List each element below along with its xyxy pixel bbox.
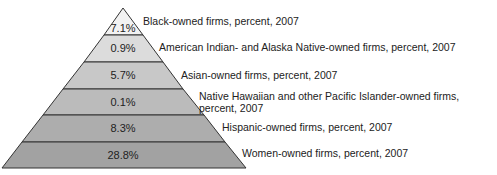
layer-label-4-line2: percent, 2007 — [199, 102, 263, 114]
layer-value-2: 0.9% — [110, 42, 135, 54]
layer-value-6: 28.8% — [107, 149, 138, 161]
layer-label-4-line1: Native Hawaiian and other Pacific Island… — [199, 90, 459, 102]
layer-value-3: 5.7% — [110, 69, 135, 81]
layer-label-5: Hispanic-owned firms, percent, 2007 — [222, 121, 392, 133]
layer-label-1: Black-owned firms, percent, 2007 — [143, 15, 299, 27]
layer-label-3: Asian-owned firms, percent, 2007 — [181, 69, 337, 81]
layer-value-5: 8.3% — [110, 122, 135, 134]
layer-value-4: 0.1% — [110, 96, 135, 108]
layer-label-6: Women-owned firms, percent, 2007 — [242, 147, 408, 159]
layer-value-1: 7.1% — [110, 22, 135, 34]
layer-label-2: American Indian- and Alaska Native-owned… — [159, 41, 456, 53]
